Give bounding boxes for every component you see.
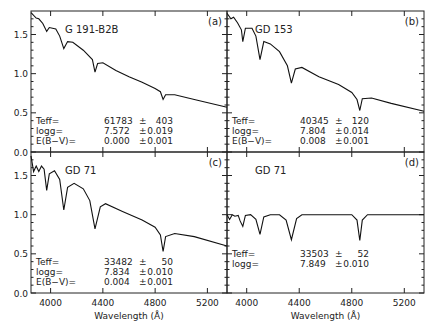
panel-label: (c) — [209, 157, 222, 168]
param-pm: ± — [335, 249, 343, 259]
param-value: 61783 — [104, 116, 133, 126]
y-tick-label: 1.5 — [14, 30, 28, 40]
param-label: Teff= — [35, 257, 59, 267]
y-tick-label: 1.0 — [14, 69, 29, 79]
param-label: logg= — [232, 259, 259, 269]
param-pm: ± — [139, 126, 147, 136]
star-name: GD 71 — [65, 165, 96, 176]
param-value: 40345 — [300, 116, 329, 126]
param-error: 0.001 — [147, 136, 173, 146]
panel-label: (a) — [208, 16, 222, 27]
x-tick-label: 4800 — [144, 298, 167, 308]
param-label: logg= — [36, 126, 63, 136]
param-label: E(B−V)= — [36, 136, 76, 146]
spectra-figure: 0.00.51.01.5(a)G 191-B2BTeff=61783±403lo… — [0, 0, 431, 331]
param-error: 50 — [162, 257, 174, 267]
param-error: 120 — [352, 116, 369, 126]
x-tick-label: 5200 — [196, 298, 219, 308]
star-name: GD 71 — [255, 165, 286, 176]
x-axis-label: Wavelength (Å) — [94, 310, 163, 321]
param-label: Teff= — [35, 116, 59, 126]
param-error: 52 — [358, 249, 369, 259]
param-label: E(B−V)= — [36, 277, 76, 287]
param-label: logg= — [36, 267, 63, 277]
param-value: 0.000 — [104, 136, 130, 146]
panel-b: (b)GD 153Teff=40345±120logg=7.804±0.014E… — [227, 11, 424, 152]
x-axis-label: Wavelength (Å) — [291, 310, 360, 321]
x-tick-label: 5200 — [393, 298, 416, 308]
star-name: GD 153 — [255, 24, 293, 35]
param-value: 33482 — [104, 257, 133, 267]
x-tick-label: 4800 — [340, 298, 363, 308]
param-pm: ± — [139, 136, 147, 146]
y-tick-label: 0.0 — [14, 148, 29, 158]
param-value: 33503 — [300, 249, 329, 259]
param-pm: ± — [335, 126, 343, 136]
param-value: 7.834 — [104, 267, 130, 277]
y-tick-label: 1.0 — [14, 210, 29, 220]
param-error: 0.014 — [343, 126, 369, 136]
star-name: G 191-B2B — [65, 24, 118, 35]
y-tick-label: 1.5 — [14, 171, 28, 181]
x-tick-label: 4000 — [39, 298, 62, 308]
param-label: Teff= — [231, 249, 255, 259]
param-label: E(B−V)= — [232, 136, 272, 146]
param-pm: ± — [335, 136, 343, 146]
param-error: 0.010 — [147, 267, 173, 277]
param-value: 7.804 — [300, 126, 326, 136]
x-tick-label: 4000 — [235, 298, 258, 308]
param-error: 0.010 — [343, 259, 369, 269]
param-error: 403 — [156, 116, 173, 126]
panel-c: 0.00.51.01.54000440048005200Wavelength (… — [14, 152, 227, 321]
param-value: 7.849 — [300, 259, 326, 269]
param-pm: ± — [335, 116, 343, 126]
y-tick-label: 0.0 — [14, 289, 29, 299]
spectrum-line — [31, 13, 227, 108]
param-error: 0.001 — [147, 277, 173, 287]
param-pm: ± — [335, 259, 343, 269]
param-pm: ± — [139, 267, 147, 277]
param-pm: ± — [139, 257, 147, 267]
y-tick-label: 0.5 — [14, 249, 28, 259]
param-value: 7.572 — [104, 126, 130, 136]
param-error: 0.001 — [343, 136, 369, 146]
param-value: 0.008 — [300, 136, 326, 146]
panel-d: 4000440048005200Wavelength (Å)(d)GD 71Te… — [227, 152, 424, 321]
param-label: Teff= — [231, 116, 255, 126]
panel-a: 0.00.51.01.5(a)G 191-B2BTeff=61783±403lo… — [14, 11, 227, 158]
param-label: logg= — [232, 126, 259, 136]
spectrum-line — [227, 215, 424, 241]
param-error: 0.019 — [147, 126, 173, 136]
panel-label: (d) — [405, 157, 419, 168]
param-pm: ± — [139, 116, 147, 126]
x-tick-label: 4400 — [91, 298, 114, 308]
param-pm: ± — [139, 277, 147, 287]
panel-label: (b) — [405, 16, 419, 27]
x-tick-label: 4400 — [288, 298, 311, 308]
y-tick-label: 0.5 — [14, 108, 28, 118]
spectrum-line — [31, 156, 227, 252]
param-value: 0.004 — [104, 277, 130, 287]
